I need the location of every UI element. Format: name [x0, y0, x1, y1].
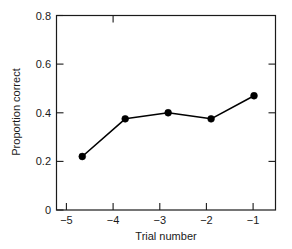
- y-tick-label-0.4: 0.4: [36, 107, 51, 119]
- chart-background: [0, 0, 292, 249]
- y-axis-title: Proportion correct: [10, 68, 22, 155]
- data-point: [79, 153, 86, 160]
- x-tick-label--4: −4: [107, 214, 120, 226]
- data-point: [122, 115, 129, 122]
- x-tick-label--1: −1: [247, 214, 260, 226]
- chart-container: 0.8 0.6 0.4 0.2 0 −5 −4 −3 −2 −1 Trial n…: [0, 0, 292, 249]
- x-tick-label--5: −5: [60, 214, 73, 226]
- x-tick-label--3: −3: [154, 214, 167, 226]
- y-tick-label-0.2: 0.2: [36, 155, 51, 167]
- x-tick-label--2: −2: [200, 214, 213, 226]
- data-point: [165, 109, 172, 116]
- line-chart: 0.8 0.6 0.4 0.2 0 −5 −4 −3 −2 −1 Trial n…: [0, 0, 292, 249]
- y-tick-label-0.6: 0.6: [36, 58, 51, 70]
- y-tick-label-0: 0: [45, 204, 51, 216]
- x-axis-title: Trial number: [135, 230, 197, 242]
- data-point: [208, 115, 215, 122]
- y-tick-label-0.8: 0.8: [36, 10, 51, 22]
- data-point: [251, 92, 258, 99]
